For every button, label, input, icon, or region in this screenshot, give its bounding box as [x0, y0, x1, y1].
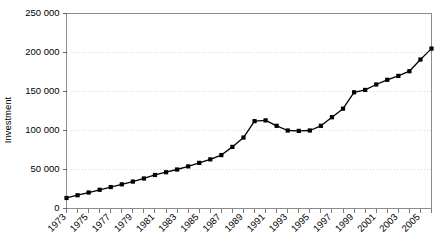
x-tick-label: 1987	[200, 211, 223, 234]
series-marker-1994	[297, 129, 301, 133]
series-marker-2002	[385, 78, 389, 82]
series-marker-1997	[330, 115, 334, 119]
x-tick-label: 1989	[222, 211, 245, 234]
x-tick-label: 1979	[112, 211, 135, 234]
series-marker-1979	[131, 179, 135, 183]
series-marker-1989	[241, 135, 245, 139]
series-marker-1984	[186, 164, 190, 168]
y-tick-label: 50 000	[30, 163, 59, 174]
x-tick-label: 1995	[289, 211, 312, 234]
series-marker-1990	[252, 119, 256, 123]
x-tick-label: 1977	[89, 211, 112, 234]
series-marker-1974	[75, 193, 79, 197]
x-tick-label: 1991	[244, 211, 267, 234]
series-marker-2005	[418, 57, 422, 61]
x-tick-label: 1999	[333, 211, 356, 234]
x-tick-label: 2005	[399, 211, 422, 234]
series-marker-1977	[109, 185, 113, 189]
series-marker-1980	[142, 176, 146, 180]
x-tick-label: 1975	[67, 211, 90, 234]
grid-lines	[67, 53, 432, 170]
series-marker-2004	[407, 69, 411, 73]
x-tick-label: 1983	[156, 211, 179, 234]
investment-line-chart: 050 000100 000150 000200 000250 000 1973…	[0, 0, 443, 251]
y-axis-tick-labels: 050 000100 000150 000200 000250 000	[25, 7, 59, 213]
plot-frame	[67, 13, 433, 209]
x-tick-label: 1997	[311, 211, 334, 234]
y-tick-label: 200 000	[25, 46, 59, 57]
x-tick-label: 2003	[377, 211, 400, 234]
x-tick-label: 2001	[355, 211, 378, 234]
series-marker-2003	[396, 74, 400, 78]
series-marker-1982	[164, 170, 168, 174]
series-marker-1987	[219, 153, 223, 157]
series-marker-1973	[64, 196, 68, 200]
y-tick-label: 150 000	[25, 85, 59, 96]
y-tick-label: 100 000	[25, 124, 59, 135]
series-marker-1983	[175, 167, 179, 171]
data-series-investment	[64, 47, 433, 201]
series-polyline	[67, 49, 432, 198]
series-marker-2001	[374, 82, 378, 86]
series-marker-1998	[341, 107, 345, 111]
series-marker-1992	[275, 124, 279, 128]
series-marker-2000	[363, 88, 367, 92]
y-tick-label: 250 000	[25, 7, 59, 18]
chart-figure: 050 000100 000150 000200 000250 000 1973…	[0, 0, 443, 251]
series-marker-2006	[429, 47, 433, 51]
series-marker-1986	[208, 157, 212, 161]
series-marker-1976	[98, 188, 102, 192]
series-marker-1991	[263, 118, 267, 122]
series-marker-1995	[308, 128, 312, 132]
series-marker-1988	[230, 145, 234, 149]
series-marker-1981	[153, 173, 157, 177]
series-marker-1975	[87, 190, 91, 194]
x-tick-label: 1973	[45, 211, 68, 234]
y-axis-ticks	[63, 14, 67, 209]
x-tick-label: 1985	[178, 211, 201, 234]
series-marker-1993	[286, 128, 290, 132]
series-marker-1985	[197, 161, 201, 165]
series-marker-1999	[352, 90, 356, 94]
x-tick-label: 1993	[266, 211, 289, 234]
series-marker-1978	[120, 182, 124, 186]
y-axis-title: Investment	[2, 96, 13, 143]
x-axis-tick-labels: 1973197519771979198119831985198719891991…	[45, 211, 422, 234]
x-axis-ticks	[67, 209, 432, 213]
series-marker-1996	[319, 124, 323, 128]
x-tick-label: 1981	[134, 211, 157, 234]
